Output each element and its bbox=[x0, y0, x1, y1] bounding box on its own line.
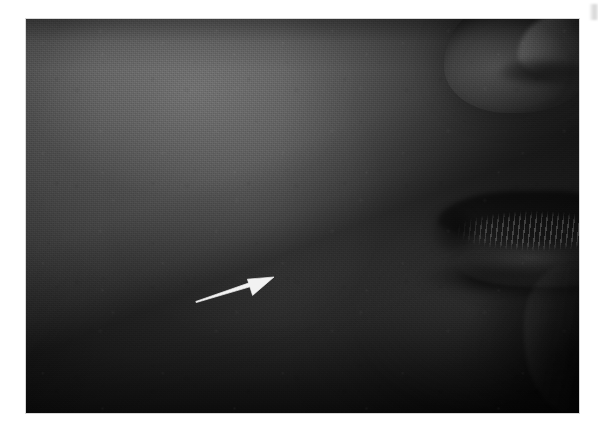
oral-commissure bbox=[430, 209, 476, 253]
clinical-photograph bbox=[26, 19, 579, 413]
figure-description: Black and white close-up clinical photog… bbox=[0, 0, 1, 1]
clinical-figure: Black and white close-up clinical photog… bbox=[0, 0, 598, 427]
page-corner-mark bbox=[589, 4, 598, 20]
